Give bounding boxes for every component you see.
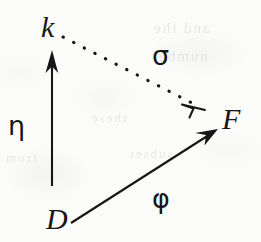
edge-sigma-arrowhead <box>182 105 205 118</box>
edge-label-sigma: σ <box>152 42 169 69</box>
edge-sigma-shaft <box>63 37 196 105</box>
edge-phi-arrowhead <box>195 129 218 146</box>
edge-phi-shaft <box>71 133 212 223</box>
scanned-diagram-page: and the number these from subset k F D η… <box>0 0 261 242</box>
edge-phi <box>71 129 218 223</box>
edge-label-phi: φ <box>152 185 170 212</box>
edge-sigma <box>63 37 205 118</box>
diagram-node-k: k <box>41 12 54 42</box>
diagram-node-f: F <box>222 104 240 134</box>
edge-label-eta: η <box>8 112 25 139</box>
edge-eta <box>46 50 59 186</box>
diagram-node-d: D <box>46 204 68 234</box>
